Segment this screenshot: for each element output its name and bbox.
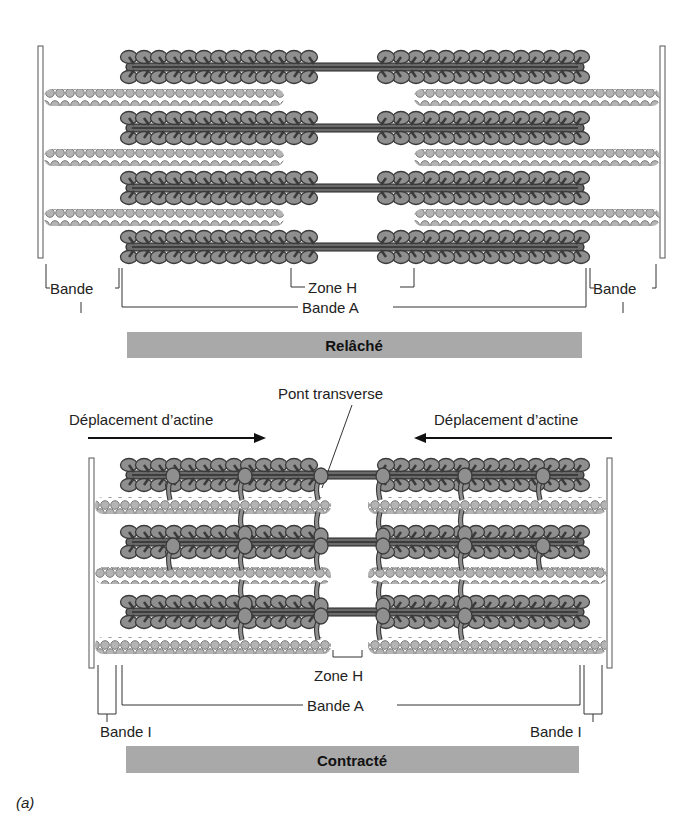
cross-bridge-icon — [314, 608, 328, 640]
cross-bridge-label: Pont transverse — [278, 385, 383, 402]
contracted-sarcomere — [89, 458, 612, 668]
relaxed-sarcomere — [38, 46, 665, 264]
relaxed-band-a-label: Bande A — [302, 299, 359, 316]
panel-label: (a) — [16, 794, 34, 811]
z-line-right — [607, 458, 612, 668]
actin-movement-right-label: Déplacement d’actine — [434, 411, 578, 428]
arrow-right-icon — [88, 433, 266, 443]
contracted-zone-h-label: Zone H — [314, 667, 363, 684]
actin-movement-left-label: Déplacement d’actine — [69, 411, 213, 428]
myosin-filaments — [121, 459, 590, 641]
contracted-band-a-label: Bande A — [307, 697, 364, 714]
actin-filaments — [95, 497, 607, 654]
contracted-banner-label: Contracté — [317, 752, 387, 769]
z-line-left — [89, 458, 94, 668]
cross-bridge-icon — [314, 468, 328, 500]
relaxed-band-i-left-label: Bande — [50, 280, 93, 297]
relaxed-band-i-right-label: Bande — [593, 280, 636, 297]
contracted-band-i-left-label: Bande I — [100, 723, 152, 740]
cross-bridge-icon — [314, 538, 328, 570]
actin-filaments — [44, 89, 660, 226]
relaxed-zone-h-label: Zone H — [308, 279, 357, 296]
relaxed-banner-label: Relâché — [325, 337, 383, 354]
contracted-band-i-right-label: Bande I — [530, 723, 582, 740]
cross-bridge-icon — [458, 510, 472, 542]
z-line-right — [660, 46, 665, 258]
z-line-left — [38, 46, 43, 258]
cross-bridge-icon — [458, 580, 472, 612]
sarcomere-diagram: Bande Bande Zone H Bande A Relâché Pont … — [0, 0, 686, 820]
arrow-left-icon — [414, 433, 612, 443]
